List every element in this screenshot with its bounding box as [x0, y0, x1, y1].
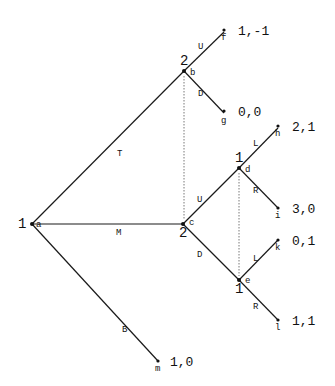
- action-b-D: D: [198, 90, 203, 99]
- action-c-D: D: [197, 251, 202, 260]
- action-T: T: [117, 150, 122, 159]
- action-M: M: [116, 229, 121, 238]
- payoff-h: 2,1: [292, 121, 315, 134]
- node-a-player: 1: [18, 217, 26, 231]
- node-l-label: l: [275, 324, 280, 333]
- node-d-label: d: [245, 166, 250, 175]
- node-b-label: b: [190, 69, 195, 78]
- payoff-f: 1,-1: [238, 25, 269, 38]
- node-m-label: m: [155, 365, 160, 374]
- action-b-U: U: [198, 43, 203, 52]
- payoff-m: 1,0: [170, 356, 193, 369]
- node-i-label: i: [275, 212, 280, 221]
- payoff-i: 3,0: [292, 203, 315, 216]
- action-e-L: L: [253, 255, 258, 264]
- node-h-label: h: [275, 130, 280, 139]
- node-b-player: 2: [180, 54, 188, 68]
- action-d-R: R: [253, 187, 258, 196]
- action-d-L: L: [253, 140, 258, 149]
- payoff-g: 0,0: [238, 106, 261, 119]
- node-e-player: 1: [235, 282, 243, 296]
- payoff-l: 1,1: [292, 315, 315, 328]
- node-g-label: g: [221, 117, 226, 126]
- node-c-player: 2: [179, 226, 187, 240]
- game-tree-edges: [0, 0, 335, 386]
- node-f-label: f: [221, 34, 226, 43]
- action-c-U: U: [197, 196, 202, 205]
- node-k-label: k: [275, 244, 280, 253]
- payoff-k: 0,1: [292, 235, 315, 248]
- action-B: B: [122, 326, 127, 335]
- node-c-label: c: [189, 219, 194, 228]
- node-a-label: a: [36, 221, 41, 230]
- node-d-player: 1: [235, 151, 243, 165]
- node-e-label: e: [245, 277, 250, 286]
- action-e-R: R: [253, 303, 258, 312]
